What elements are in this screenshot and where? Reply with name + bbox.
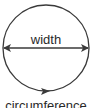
circle-diagram: width circumference: [0, 0, 92, 108]
width-label: width: [30, 32, 61, 47]
circumference-label: circumference: [5, 98, 87, 108]
circumference-arrowhead: [41, 88, 50, 95]
